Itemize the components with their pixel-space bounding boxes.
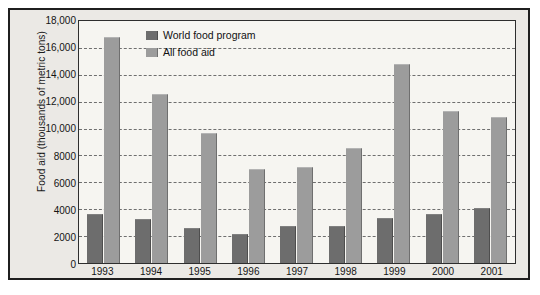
legend-swatch-icon — [146, 31, 158, 40]
y-axis-tick-label: 2000 — [54, 231, 76, 242]
x-axis-tick-label: 1996 — [224, 266, 273, 280]
bar-all-food-aid — [201, 133, 217, 263]
bar-group — [467, 21, 515, 263]
plot-inner — [79, 21, 515, 263]
chart-legend: World food program All food aid — [146, 28, 256, 62]
bar-all-food-aid — [152, 94, 168, 263]
x-axis-tick-label: 1998 — [321, 266, 370, 280]
bar-groups — [79, 21, 515, 263]
y-axis-tick-label: 16,000 — [45, 42, 76, 53]
y-axis-tick-label: 4000 — [54, 204, 76, 215]
x-axis-tick-label: 1994 — [127, 266, 176, 280]
legend-item-all-food-aid: All food aid — [146, 45, 256, 59]
bar-world-food-program — [184, 228, 200, 263]
y-axis-tick-label: 0 — [70, 259, 76, 270]
bar-world-food-program — [474, 208, 490, 263]
bar-world-food-program — [87, 214, 103, 263]
legend-item-world-food-program: World food program — [146, 28, 256, 42]
y-axis-tick-label: 8000 — [54, 150, 76, 161]
x-axis-tick-labels: 199319941995199619971998199920002001 — [78, 266, 516, 280]
bar-group — [321, 21, 369, 263]
bar-all-food-aid — [394, 64, 410, 263]
chart-figure: Food aid (thousands of metric tons) 0200… — [8, 8, 530, 280]
bar-world-food-program — [426, 214, 442, 263]
legend-swatch-icon — [146, 48, 158, 57]
bar-all-food-aid — [491, 117, 507, 263]
x-axis-tick-label: 2000 — [419, 266, 468, 280]
bar-all-food-aid — [346, 148, 362, 263]
bar-all-food-aid — [297, 167, 313, 263]
y-axis-tick-label: 6000 — [54, 177, 76, 188]
plot-area — [78, 20, 516, 264]
bar-group — [418, 21, 466, 263]
bar-all-food-aid — [249, 169, 265, 263]
bar-group — [273, 21, 321, 263]
bar-world-food-program — [135, 219, 151, 263]
bar-group — [370, 21, 418, 263]
legend-item-label: World food program — [163, 29, 256, 41]
y-axis-tick-label: 12,000 — [45, 96, 76, 107]
y-axis-tick-label: 10,000 — [45, 123, 76, 134]
y-axis-tick-labels: 0200040006000800010,00012,00014,00016,00… — [28, 20, 76, 264]
x-axis-tick-label: 1993 — [78, 266, 127, 280]
bar-world-food-program — [232, 234, 248, 263]
x-axis-tick-label: 1999 — [370, 266, 419, 280]
bar-group — [79, 21, 127, 263]
bar-all-food-aid — [104, 37, 120, 263]
x-axis-tick-label: 1997 — [273, 266, 322, 280]
bar-world-food-program — [329, 226, 345, 263]
legend-item-label: All food aid — [163, 46, 215, 58]
x-axis-tick-label: 1995 — [175, 266, 224, 280]
bar-world-food-program — [280, 226, 296, 263]
x-axis-tick-label: 2001 — [467, 266, 516, 280]
bar-world-food-program — [377, 218, 393, 263]
y-axis-tick-label: 14,000 — [45, 69, 76, 80]
y-axis-tick-label: 18,000 — [45, 15, 76, 26]
bar-all-food-aid — [443, 111, 459, 263]
